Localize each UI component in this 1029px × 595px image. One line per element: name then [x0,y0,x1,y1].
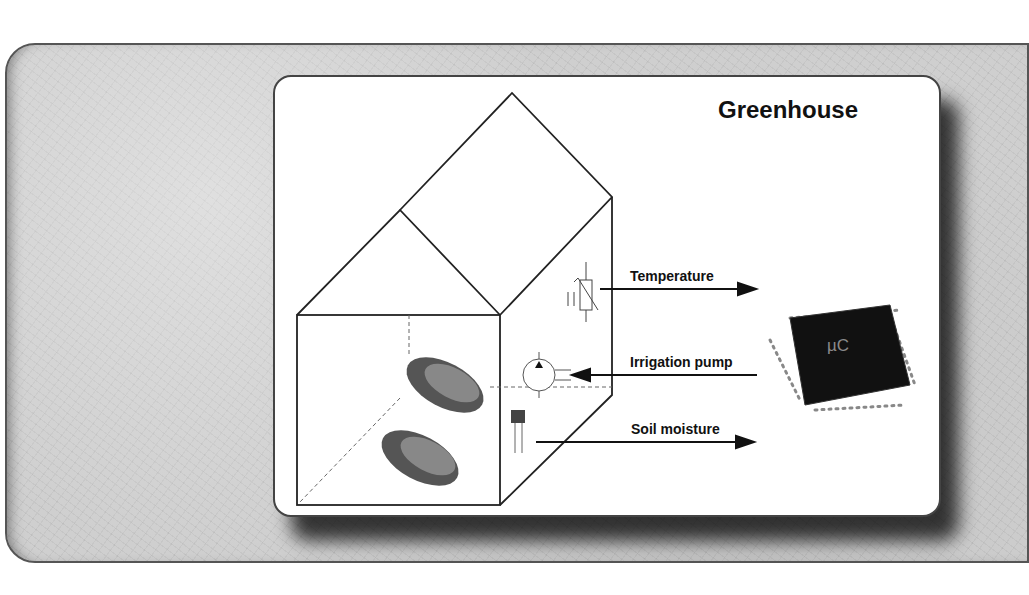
temperature-label: Temperature [630,268,714,284]
lettuce-icon [398,346,493,424]
microcontroller-label: µC [827,336,849,356]
thermistor-icon [568,262,598,322]
soil-moisture-label: Soil moisture [631,421,720,437]
moisture-sensor-icon [511,410,525,453]
irrigation-pump-label: Irrigation pump [630,354,733,370]
greenhouse-house-icon [297,93,612,505]
microcontroller-chip-icon [770,305,915,410]
pump-icon [523,352,571,398]
lettuce-icon [373,419,468,497]
temperature-arrow [600,283,756,295]
irrigation-pump-arrow [572,369,757,381]
